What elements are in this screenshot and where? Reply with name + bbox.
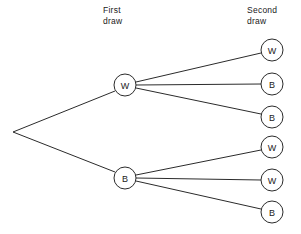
second-draw-node-1-b: B (261, 73, 283, 95)
second-draw-node-3-w-label: W (268, 143, 277, 153)
second-draw-node-5-b: B (261, 201, 283, 223)
tree-graphic: WBWBBWWB (0, 0, 301, 234)
second-draw-node-2-b-label: B (269, 113, 275, 123)
probability-tree-diagram: First draw Second draw WBWBBWWB (0, 0, 301, 234)
tree-edge-root-to-first-0 (13, 91, 115, 132)
tree-edge-first-1-to-second-4 (136, 178, 261, 180)
second-draw-node-1-b-label: B (269, 80, 275, 90)
tree-edge-first-0-to-second-1 (136, 84, 261, 85)
first-draw-node-1-b-label: B (122, 174, 128, 184)
tree-edge-root-to-first-1 (13, 132, 115, 172)
second-draw-node-3-w: W (261, 136, 283, 158)
second-draw-node-0-w-label: W (268, 46, 277, 56)
tree-edge-first-0-to-second-0 (136, 53, 261, 82)
tree-edge-first-1-to-second-5 (136, 181, 261, 209)
first-draw-node-1-b: B (114, 167, 136, 189)
second-draw-node-4-w: W (261, 169, 283, 191)
second-draw-node-5-b-label: B (269, 208, 275, 218)
second-draw-node-4-w-label: W (268, 176, 277, 186)
tree-edge-first-0-to-second-2 (136, 88, 261, 114)
tree-edge-first-1-to-second-3 (136, 150, 261, 175)
second-draw-node-0-w: W (261, 39, 283, 61)
first-draw-node-0-w: W (114, 74, 136, 96)
second-draw-node-2-b: B (261, 106, 283, 128)
first-draw-node-0-w-label: W (121, 81, 130, 91)
edges-group (13, 53, 261, 209)
